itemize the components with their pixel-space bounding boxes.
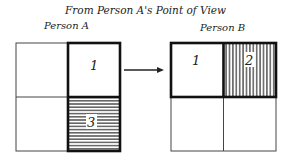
person-a-grid: 1 3	[16, 43, 120, 151]
person-a-cell-3-label: 3	[87, 115, 95, 130]
window-diagram: 1 3 1 2	[0, 0, 291, 160]
person-b-cell-1-label: 1	[192, 53, 200, 68]
person-b-grid: 1 2	[171, 43, 276, 151]
person-b-cell-2-label: 2	[244, 53, 253, 68]
person-a-cell-1-label: 1	[90, 58, 98, 73]
person-b-cell-2-hatch	[224, 43, 277, 97]
arrow-right-icon	[124, 67, 164, 73]
